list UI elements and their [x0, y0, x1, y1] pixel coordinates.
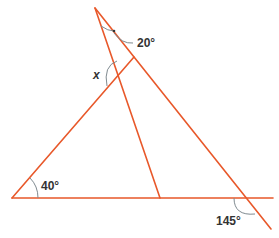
x-angle-label: x	[92, 68, 101, 82]
right-transversal-line	[95, 8, 271, 229]
exterior-angle-label: 145°	[216, 214, 241, 228]
base-left-angle-label: 40°	[41, 179, 59, 193]
apex-angle-label: 20°	[137, 36, 155, 50]
left-line	[12, 57, 134, 198]
geometry-diagram: 20° x 40° 145°	[0, 0, 279, 238]
apex-angle-dot	[113, 30, 116, 33]
base-left-angle-arc	[30, 178, 38, 198]
